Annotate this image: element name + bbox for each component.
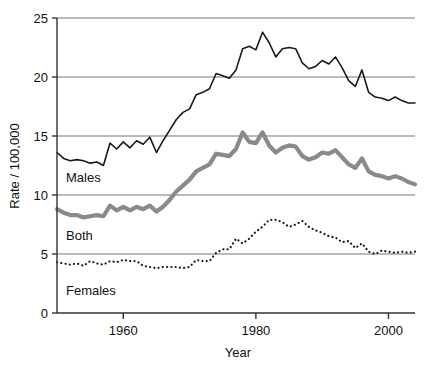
series-label-males: Males xyxy=(66,170,101,185)
y-tick-label-15: 15 xyxy=(34,129,48,144)
y-tick-label-10: 10 xyxy=(34,188,48,203)
x-axis-title: Year xyxy=(225,345,252,360)
line-chart: 0510152025 196019802000 Rate / 100,000 Y… xyxy=(0,0,428,368)
y-tick-label-20: 20 xyxy=(34,70,48,85)
series-label-both: Both xyxy=(66,228,93,243)
series-label-females: Females xyxy=(66,283,116,298)
y-axis-title: Rate / 100,000 xyxy=(7,123,22,208)
x-tick-label-1980: 1980 xyxy=(241,323,270,338)
x-tick-label-2000: 2000 xyxy=(374,323,403,338)
x-tick-label-1960: 1960 xyxy=(109,323,138,338)
chart-container: 0510152025 196019802000 Rate / 100,000 Y… xyxy=(0,0,428,368)
y-tick-label-0: 0 xyxy=(41,306,48,321)
y-tick-label-25: 25 xyxy=(34,11,48,26)
y-tick-label-5: 5 xyxy=(41,247,48,262)
